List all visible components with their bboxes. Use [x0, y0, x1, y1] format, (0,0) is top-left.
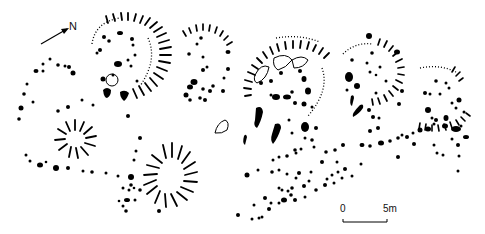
structure-1 — [92, 13, 171, 101]
hut-circle-small — [55, 120, 96, 158]
structure-2 — [183, 24, 232, 133]
lower-left-post-holes — [25, 114, 162, 213]
structure-3 — [243, 37, 329, 145]
north-arrow-icon — [41, 28, 69, 44]
scale-end-label: 5m — [383, 203, 397, 214]
scale-bar — [343, 219, 387, 222]
north-label: N — [69, 20, 77, 32]
scale-start-label: 0 — [340, 203, 346, 214]
hut-circle-oval — [144, 143, 197, 207]
site-plan — [0, 0, 485, 234]
left-stake-arc — [17, 58, 94, 121]
post-hole-alignment — [236, 115, 463, 221]
